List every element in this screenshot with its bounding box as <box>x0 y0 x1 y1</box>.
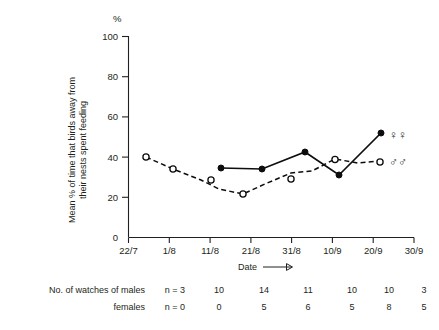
x-tick-label-30-9: 30/9 <box>405 245 424 256</box>
x-tick-label-1-8: 1/8 <box>163 245 176 256</box>
y-axis-group: 100 80 60 40 20 0 % Mean % of time that … <box>67 13 129 243</box>
table-cell-males-3: 14 <box>259 285 269 295</box>
x-axis-arrow-icon <box>263 264 293 271</box>
y-tick-label-80: 80 <box>107 71 118 82</box>
table-cell-females-2: 0 <box>216 302 221 312</box>
y-axis-title-line1: Mean % of time that birds away from <box>67 77 77 223</box>
feeding-time-line-chart: 100 80 60 40 20 0 % Mean % of time that … <box>0 0 439 330</box>
x-tick-label-10-9: 10/9 <box>323 245 342 256</box>
table-row-label-females: females <box>113 302 145 312</box>
x-axis-title: Date <box>238 262 257 272</box>
y-tick-label-100: 100 <box>102 31 118 42</box>
y-axis-unit-percent: % <box>113 13 122 24</box>
table-cell-females-4: 6 <box>305 302 310 312</box>
females-point-5 <box>378 130 384 136</box>
females-point-2 <box>259 166 265 172</box>
table-cell-males-6: 10 <box>384 285 394 295</box>
x-axis-group: 22/7 1/8 11/8 21/8 31/8 10/9 20/9 30/9 D… <box>119 238 423 273</box>
table-cell-females-5: 5 <box>349 302 354 312</box>
legend-male-symbol: ♂♂ <box>389 155 407 169</box>
females-point-1 <box>218 165 224 171</box>
series-females <box>218 130 384 178</box>
table-cell-males-5: 10 <box>347 285 357 295</box>
table-cell-females-3: 5 <box>261 302 266 312</box>
table-cell-males-2: 10 <box>214 285 224 295</box>
females-point-4 <box>336 172 342 178</box>
figure-container: 100 80 60 40 20 0 % Mean % of time that … <box>0 0 439 330</box>
males-point-2 <box>170 166 176 172</box>
y-tick-label-20: 20 <box>107 192 118 203</box>
males-point-5 <box>288 176 294 182</box>
table-cell-females-6: 8 <box>386 302 391 312</box>
table-row-label-males: No. of watches of males <box>49 285 146 295</box>
y-tick-label-40: 40 <box>107 152 118 163</box>
table-cell-females-1: n = 0 <box>165 302 185 312</box>
females-point-3 <box>302 149 308 155</box>
table-cell-males-1: n = 3 <box>165 285 185 295</box>
females-line <box>221 133 381 175</box>
table-cell-males-4: 11 <box>303 285 312 295</box>
males-point-4 <box>240 191 246 197</box>
males-line <box>146 157 380 194</box>
males-point-7 <box>377 159 383 165</box>
table-row-males: n = 3 10 14 11 10 10 3 <box>165 285 427 295</box>
series-males <box>143 154 383 197</box>
males-point-1 <box>143 154 149 160</box>
y-tick-label-0: 0 <box>113 232 118 243</box>
x-tick-label-22-7: 22/7 <box>119 245 138 256</box>
table-cell-females-7: 5 <box>421 302 426 312</box>
males-point-3 <box>208 177 214 183</box>
x-tick-label-11-8: 11/8 <box>201 245 219 256</box>
x-tick-label-20-9: 20/9 <box>364 245 383 256</box>
y-axis-title-line2: their nests spent feeding <box>78 101 88 199</box>
x-tick-label-21-8: 21/8 <box>242 245 261 256</box>
table-cell-males-7: 3 <box>421 285 426 295</box>
x-tick-label-31-8: 31/8 <box>282 245 301 256</box>
legend-female-symbol: ♀♀ <box>389 128 407 142</box>
watch-counts-table: No. of watches of males females n = 3 10… <box>49 285 427 312</box>
males-point-6 <box>332 156 338 162</box>
table-row-females: n = 0 0 5 6 5 8 5 <box>165 302 427 312</box>
legend-group: ♀♀ ♂♂ <box>389 128 407 169</box>
y-tick-label-60: 60 <box>107 111 118 122</box>
